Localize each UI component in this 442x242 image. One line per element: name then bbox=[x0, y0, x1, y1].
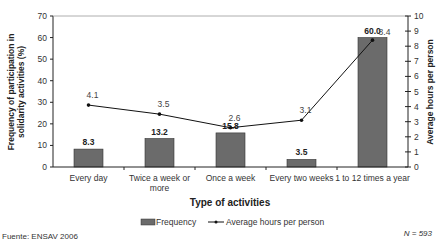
category-label: Every day bbox=[70, 173, 109, 183]
right-tick-label: 5 bbox=[414, 87, 419, 97]
right-y-axis-title: Average hours per person bbox=[425, 39, 435, 145]
right-tick-label: 8 bbox=[414, 41, 419, 51]
left-tick-label: 30 bbox=[38, 97, 48, 107]
line-point bbox=[158, 112, 162, 116]
bar bbox=[74, 149, 103, 167]
right-tick-label: 10 bbox=[414, 11, 424, 21]
line-point bbox=[371, 38, 375, 42]
category-label: more bbox=[150, 183, 170, 193]
sample-size-note: N = 593 bbox=[404, 229, 433, 238]
right-tick-label: 6 bbox=[414, 71, 419, 81]
category-label: Every two weeks bbox=[270, 173, 334, 183]
line-value-label: 3.5 bbox=[158, 99, 170, 109]
legend-line-marker bbox=[215, 221, 218, 224]
legend-frequency-label: Frequency bbox=[156, 217, 197, 227]
right-tick-label: 0 bbox=[414, 162, 419, 172]
left-tick-label: 50 bbox=[38, 54, 48, 64]
left-tick-label: 10 bbox=[38, 140, 48, 150]
y-axis-title-line2: solidarity activities (%) bbox=[16, 46, 26, 138]
line-value-label: 4.1 bbox=[87, 90, 99, 100]
average-hours-line: 4.13.52.63.18.4 bbox=[87, 27, 391, 129]
frequency-bars: 8.313.215.83.560.0 bbox=[74, 26, 387, 167]
left-tick-label: 70 bbox=[38, 11, 48, 21]
bar-value-label: 13.2 bbox=[151, 127, 168, 137]
right-tick-label: 9 bbox=[414, 26, 419, 36]
legend-average-hours-label: Average hours per person bbox=[226, 217, 324, 227]
bar-value-label: 8.3 bbox=[83, 137, 95, 147]
y-axis-title-line1: Frequency of participation in bbox=[6, 34, 16, 151]
right-tick-label: 1 bbox=[414, 147, 419, 157]
left-tick-label: 20 bbox=[38, 119, 48, 129]
bar bbox=[145, 139, 174, 167]
right-tick-label: 2 bbox=[414, 132, 419, 142]
category-label: 1 to 12 times a year bbox=[335, 173, 410, 183]
x-axis-title: Type of activities bbox=[190, 197, 271, 208]
bar bbox=[358, 38, 387, 167]
category-label: Once a week bbox=[206, 173, 256, 183]
bar bbox=[216, 133, 245, 167]
right-tick-label: 3 bbox=[414, 117, 419, 127]
legend: Frequency Average hours per person bbox=[141, 217, 324, 227]
left-tick-label: 60 bbox=[38, 33, 48, 43]
right-tick-label: 4 bbox=[414, 102, 419, 112]
line-value-label: 2.6 bbox=[229, 113, 241, 123]
line-point bbox=[229, 126, 233, 130]
line-value-label: 8.4 bbox=[379, 27, 391, 37]
bar bbox=[287, 159, 316, 167]
line-point bbox=[300, 118, 304, 122]
category-label: Twice a week or bbox=[129, 173, 190, 183]
combo-chart: 010203040506070 012345678910 8.313.215.8… bbox=[0, 0, 442, 242]
right-tick-label: 7 bbox=[414, 56, 419, 66]
line-point bbox=[87, 103, 91, 107]
left-tick-label: 0 bbox=[42, 162, 47, 172]
x-axis: Every dayTwice a week ormoreOnce a weekE… bbox=[53, 167, 410, 193]
left-tick-label: 40 bbox=[38, 76, 48, 86]
legend-frequency-swatch bbox=[141, 219, 155, 225]
bar-value-label: 3.5 bbox=[296, 147, 308, 157]
line-value-label: 3.1 bbox=[300, 105, 312, 115]
source-note: Fuente: ENSAV 2006 bbox=[2, 232, 78, 241]
right-y-axis: 012345678910 bbox=[405, 11, 424, 172]
